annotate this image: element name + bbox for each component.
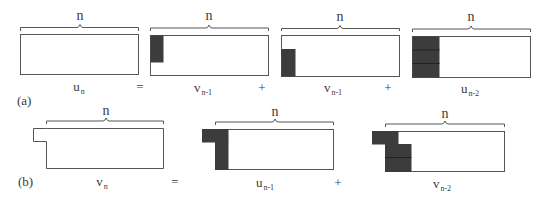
- diagram-graphics: [0, 0, 550, 199]
- label-v-n-1: vn-1: [324, 81, 342, 96]
- tile-horizontal-overhang: [372, 131, 399, 145]
- plus-sign: +: [384, 81, 391, 94]
- label-v-n: vn: [96, 175, 108, 190]
- brace-a4: [413, 26, 531, 32]
- brace-label-n: n: [468, 10, 475, 24]
- tile-stack-three: [413, 37, 440, 78]
- board-v-n-1-first: [151, 36, 269, 76]
- label-u-n: un: [73, 80, 85, 95]
- brace-b3: [386, 121, 505, 127]
- brace-b2: [216, 119, 334, 125]
- brace-label-n: n: [442, 107, 449, 121]
- tile-vertical-under: [215, 142, 229, 170]
- board-u-n-1: [216, 130, 334, 170]
- plus-sign: +: [334, 176, 341, 189]
- brace-label-n: n: [77, 9, 84, 23]
- tile-horizontal-overhang: [202, 129, 229, 143]
- board-u-n: [21, 35, 139, 75]
- board-v-n-1-second: [282, 36, 400, 77]
- brace-a3: [282, 26, 400, 32]
- brace-a2: [151, 25, 269, 31]
- panel-tag-a: (a): [17, 94, 31, 107]
- tile-vertical-top: [151, 36, 164, 63]
- panel-tag-b: (b): [18, 175, 33, 188]
- label-v-n-2: vn-2: [433, 177, 451, 192]
- brace-b1: [47, 118, 164, 124]
- brace-label-n: n: [103, 104, 110, 118]
- brace-label-n: n: [272, 105, 279, 119]
- plus-sign: +: [258, 81, 265, 94]
- brace-a1: [21, 25, 139, 32]
- tiling-recurrence-diagram: n n n n n n n un = vn-1 + vn-1 + un-2 (a…: [0, 0, 550, 199]
- brace-label-n: n: [206, 9, 213, 23]
- equals-sign: =: [171, 175, 178, 188]
- tile-vertical-bottom: [282, 49, 296, 77]
- label-u-n-1: un-1: [256, 176, 274, 191]
- equals-sign: =: [136, 80, 143, 93]
- brace-label-n: n: [337, 10, 344, 24]
- board-v-n: [34, 129, 164, 169]
- label-u-n-2: un-2: [461, 82, 479, 97]
- label-v-n-1: vn-1: [194, 81, 212, 96]
